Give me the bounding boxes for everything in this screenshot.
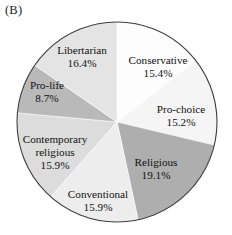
pie-chart-figure: (B) Conservative15.4%Pro-choice15.2%Reli… (0, 0, 232, 235)
pie-chart: Conservative15.4%Pro-choice15.2%Religiou… (0, 0, 232, 235)
